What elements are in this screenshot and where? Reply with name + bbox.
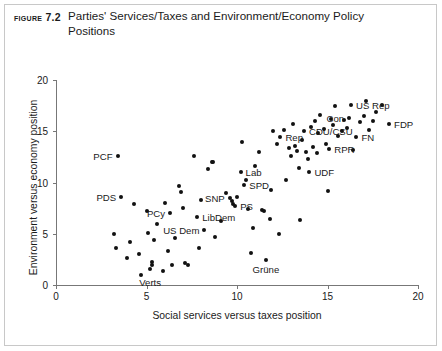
data-point [349,103,353,107]
data-point [277,232,281,236]
y-tick-label: 5 [28,228,48,239]
data-point [287,146,291,150]
data-point [233,204,237,208]
party-label: Con [327,112,345,123]
figure-container: Figure 7.2 Parties' Services/Taxes and E… [0,0,442,351]
data-point [327,147,331,151]
data-point [354,135,358,139]
data-point [240,140,244,144]
data-point [163,201,167,205]
data-point [307,170,311,174]
data-point [289,154,293,158]
data-point [211,160,215,164]
data-point [148,267,152,271]
party-label: Verts [139,277,161,288]
data-point [249,251,253,255]
x-tick-mark [418,285,419,289]
data-point [146,231,150,235]
party-label: UDF [314,167,334,178]
data-point [202,228,206,232]
x-tick-mark [328,285,329,289]
data-point [271,129,275,133]
data-point [347,116,351,120]
party-label: PDS [96,191,116,202]
party-label: FN [361,132,374,143]
party-label: US Dem [163,224,199,235]
data-point [313,119,317,123]
data-point [199,198,203,202]
data-point [181,206,185,210]
data-point [275,142,279,146]
data-point [244,178,248,182]
x-tick-label: 10 [231,291,242,302]
data-point [152,238,156,242]
y-tick-label: 10 [28,177,48,188]
y-tick-label: 0 [28,280,48,291]
data-point [293,144,297,148]
data-point [295,149,299,153]
data-point [362,114,366,118]
data-point [150,263,154,267]
y-tick-label: 15 [28,126,48,137]
data-point [186,263,190,267]
data-point [197,246,201,250]
data-point [257,150,261,154]
x-tick-label: 0 [53,291,59,302]
data-point [213,235,217,239]
data-point [264,258,268,262]
data-point [311,145,315,149]
data-point [326,189,330,193]
y-tick-mark [53,285,57,286]
data-point [161,269,165,273]
party-label: US Rep [356,99,390,110]
data-point [284,178,288,182]
party-label: CDU/CSU [309,126,353,137]
data-point [112,232,116,236]
data-point [304,150,308,154]
data-point [291,122,295,126]
data-point [177,184,181,188]
data-point [179,190,183,194]
data-point [297,166,301,170]
party-label: RPR [334,143,354,154]
data-point [298,218,302,222]
data-point [268,217,272,221]
party-label: PS [240,201,253,212]
data-point [192,154,196,158]
data-point [333,104,337,108]
party-label: FDP [394,119,413,130]
data-point [170,263,174,267]
party-label: PCF [93,150,112,161]
data-point [125,256,129,260]
y-tick-mark [53,80,57,81]
data-point [387,122,391,126]
y-tick-mark [53,183,57,184]
data-point [251,226,255,230]
data-point [239,170,243,174]
data-point [168,211,172,215]
data-point [262,209,266,213]
data-point [132,202,136,206]
data-point [155,222,159,226]
data-point [324,142,328,146]
data-point [269,188,273,192]
data-point [318,113,322,117]
y-tick-mark [53,234,57,235]
data-point [206,167,210,171]
data-point [173,236,177,240]
party-label: SNP [205,192,225,203]
party-label: LibDem [202,212,235,223]
party-label: Grüne [253,264,280,275]
party-label: PCy [147,208,165,219]
x-tick-label: 15 [322,291,333,302]
data-point [119,195,123,199]
data-point [242,183,246,187]
data-point [371,119,375,123]
data-point [137,252,141,256]
x-tick-label: 5 [144,291,150,302]
party-label: Lab [246,167,262,178]
data-point [128,240,132,244]
y-tick-label: 20 [28,75,48,86]
data-point [306,157,310,161]
data-point [358,120,362,124]
